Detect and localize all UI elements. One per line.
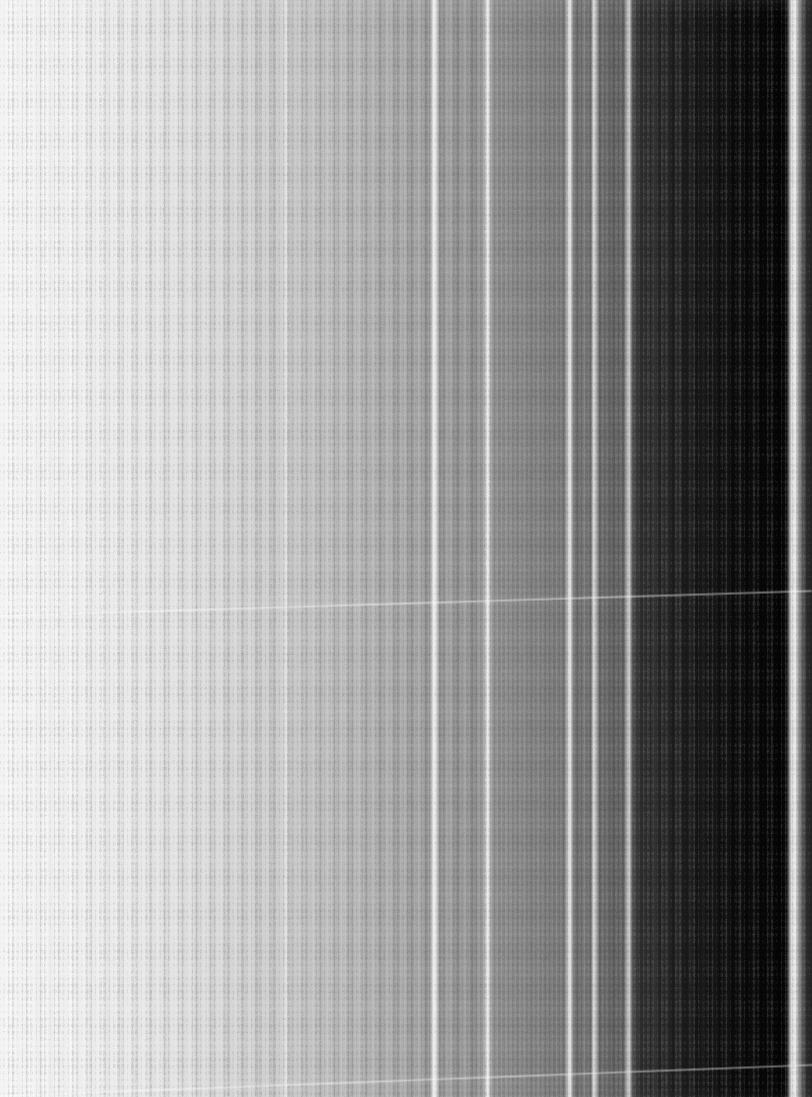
stripe-band bbox=[758, 0, 766, 1097]
stripe-band bbox=[523, 0, 531, 1097]
stripe-band bbox=[163, 0, 170, 1097]
stripe-band bbox=[124, 0, 133, 1097]
stripe-band bbox=[730, 0, 737, 1097]
stripe-band bbox=[538, 0, 546, 1097]
stripe-band bbox=[318, 0, 325, 1097]
stripe-band bbox=[766, 0, 774, 1097]
stripe-band bbox=[675, 0, 682, 1097]
stripe-band bbox=[378, 0, 385, 1097]
stripe-band bbox=[454, 0, 461, 1097]
stripe-band bbox=[400, 0, 408, 1097]
stripe-band bbox=[478, 0, 485, 1097]
stripe-band bbox=[111, 0, 119, 1097]
stripe-band bbox=[170, 0, 180, 1097]
stripe-band bbox=[437, 0, 446, 1097]
stripe-band bbox=[446, 0, 454, 1097]
stripe-band bbox=[53, 0, 60, 1097]
stripe-band bbox=[224, 0, 231, 1097]
stripe-band bbox=[597, 0, 604, 1097]
stripe-band bbox=[415, 0, 424, 1097]
stripe-band bbox=[631, 0, 639, 1097]
stripe-band bbox=[604, 0, 612, 1097]
stripe-band bbox=[774, 0, 782, 1097]
stripe-band bbox=[639, 0, 646, 1097]
stripe-band bbox=[262, 0, 271, 1097]
stripe-band bbox=[255, 0, 262, 1097]
stripe-band bbox=[657, 0, 664, 1097]
stripe-band bbox=[88, 0, 95, 1097]
stripe-band bbox=[552, 0, 559, 1097]
stripe-layer bbox=[0, 0, 812, 1097]
stripe-band bbox=[310, 0, 318, 1097]
stripe-band bbox=[612, 0, 619, 1097]
stripe-band bbox=[186, 0, 194, 1097]
stripe-band bbox=[370, 0, 378, 1097]
spectrum-image-stage bbox=[0, 0, 812, 1097]
stripe-band bbox=[424, 0, 432, 1097]
stripe-band bbox=[154, 0, 163, 1097]
stripe-band bbox=[201, 0, 210, 1097]
stripe-band bbox=[247, 0, 255, 1097]
stripe-band bbox=[60, 0, 69, 1097]
stripe-band bbox=[579, 0, 587, 1097]
stripe-band bbox=[490, 0, 499, 1097]
stripe-band bbox=[15, 0, 25, 1097]
stripe-band bbox=[693, 0, 700, 1097]
stripe-band bbox=[806, 0, 812, 1097]
stripe-band bbox=[514, 0, 523, 1097]
stripe-band bbox=[34, 0, 42, 1097]
stripe-band bbox=[140, 0, 148, 1097]
stripe-band bbox=[340, 0, 348, 1097]
stripe-band bbox=[711, 0, 718, 1097]
stripe-band bbox=[80, 0, 88, 1097]
stripe-band bbox=[789, 0, 798, 1097]
stripe-band bbox=[7, 0, 15, 1097]
stripe-band bbox=[295, 0, 304, 1097]
stripe-band bbox=[470, 0, 478, 1097]
stripe-band bbox=[461, 0, 470, 1097]
stripe-band bbox=[216, 0, 224, 1097]
stripe-band bbox=[743, 0, 750, 1097]
stripe-band bbox=[619, 0, 626, 1097]
stripe-band bbox=[133, 0, 140, 1097]
stripe-band bbox=[531, 0, 538, 1097]
stripe-band bbox=[355, 0, 364, 1097]
stripe-band bbox=[276, 0, 284, 1097]
stripe-band bbox=[288, 0, 295, 1097]
stripe-band bbox=[499, 0, 507, 1097]
stripe-band bbox=[231, 0, 241, 1097]
stripe-band bbox=[348, 0, 355, 1097]
stripe-band bbox=[0, 0, 7, 1097]
stripe-band bbox=[572, 0, 579, 1097]
stripe-band bbox=[507, 0, 514, 1097]
stripe-band bbox=[559, 0, 567, 1097]
stripe-band bbox=[325, 0, 334, 1097]
stripe-band bbox=[25, 0, 34, 1097]
stripe-band bbox=[385, 0, 394, 1097]
stripe-band bbox=[194, 0, 201, 1097]
stripe-band bbox=[750, 0, 758, 1097]
stripe-band bbox=[408, 0, 415, 1097]
stripe-band bbox=[95, 0, 105, 1097]
stripe-band bbox=[782, 0, 789, 1097]
